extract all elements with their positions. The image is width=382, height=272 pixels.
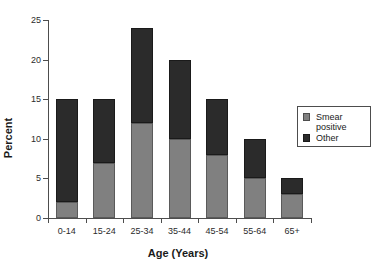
x-axis-title: Age (Years) (48, 247, 308, 259)
y-axis-tick (43, 60, 49, 61)
y-axis-tick-label: 25 (15, 15, 41, 25)
bar-segment-smear-positive (281, 194, 303, 218)
bar-segment-other (131, 28, 153, 123)
y-axis-tick (43, 139, 49, 140)
bar-segment-other (244, 139, 266, 179)
bar-segment-smear-positive (93, 163, 115, 218)
y-axis-tick (43, 178, 49, 179)
bar-65+ (281, 178, 303, 218)
bar-segment-other (56, 99, 78, 202)
y-axis-line (48, 20, 49, 219)
bar-35-44 (169, 60, 191, 218)
y-axis-tick-label: 0 (15, 213, 41, 223)
y-axis-tick-label: 20 (15, 55, 41, 65)
other-swatch-icon (303, 134, 310, 142)
smear-positive-swatch-icon (303, 113, 310, 121)
x-axis-tick (273, 218, 274, 223)
bar-segment-other (206, 99, 228, 154)
bar-segment-other (281, 178, 303, 194)
x-axis-line (48, 218, 311, 219)
bar-segment-smear-positive (131, 123, 153, 218)
bar-segment-other (93, 99, 115, 162)
bar-55-64 (244, 139, 266, 218)
x-axis-tick (161, 218, 162, 223)
bar-segment-smear-positive (244, 178, 266, 218)
legend-label-smear-positive: Smear positive (316, 112, 347, 132)
stacked-bar-chart: Percent 0510152025 0-1415-2425-3435-4445… (0, 0, 382, 272)
bar-segment-smear-positive (206, 155, 228, 218)
y-axis-title-label: Percent (2, 78, 14, 198)
y-axis-tick-label: 15 (15, 94, 41, 104)
x-axis-tick (123, 218, 124, 223)
bar-0-14 (56, 99, 78, 218)
x-axis-tick (86, 218, 87, 223)
bar-15-24 (93, 99, 115, 218)
y-axis-tick (43, 99, 49, 100)
bar-25-34 (131, 28, 153, 218)
y-axis-tick-label: 5 (15, 173, 41, 183)
y-axis-tick-label: 10 (15, 134, 41, 144)
bar-45-54 (206, 99, 228, 218)
x-axis-tick-label: 65+ (268, 226, 316, 236)
x-axis-tick (48, 218, 49, 223)
x-axis-tick (236, 218, 237, 223)
bar-segment-smear-positive (169, 139, 191, 218)
bar-segment-other (169, 60, 191, 139)
x-axis-tick (311, 218, 312, 223)
legend-label-other: Other (316, 133, 339, 143)
legend: Smear positive Other (297, 106, 371, 147)
x-axis-tick (198, 218, 199, 223)
bar-segment-smear-positive (56, 202, 78, 218)
y-axis-tick (43, 20, 49, 21)
